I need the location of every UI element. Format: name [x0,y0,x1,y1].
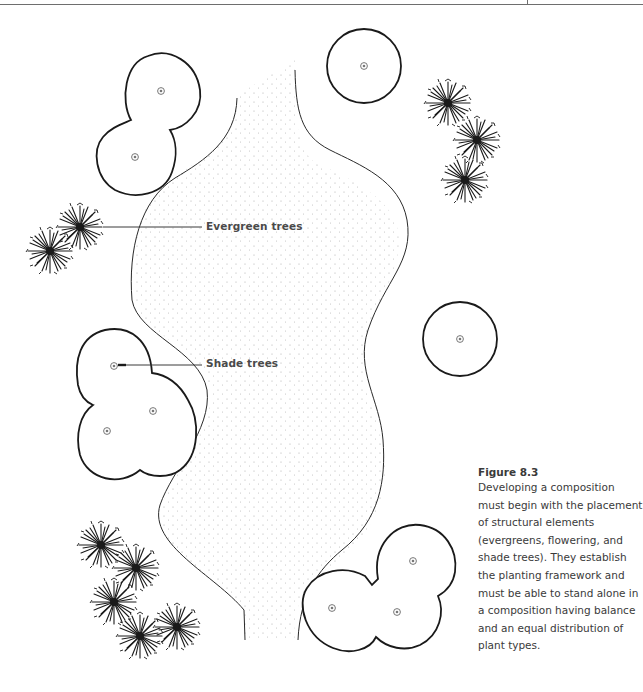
figure-title: Figure 8.3 [478,465,643,479]
evergreen-group-mid-left [26,203,103,274]
evergreen-trees-label: Evergreen trees [206,220,303,232]
figure-caption: Figure 8.3 Developing a composition must… [478,465,643,655]
shade-tree-group-mid-left [77,329,196,479]
figure-caption-text: Developing a composition must begin with… [478,479,643,655]
evergreen-group-top-right [424,79,500,203]
shade-trees-label: Shade trees [206,357,278,369]
